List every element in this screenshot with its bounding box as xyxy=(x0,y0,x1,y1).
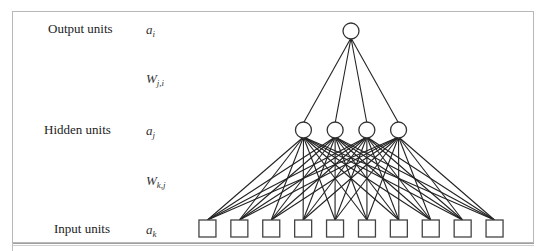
input-unit xyxy=(390,220,407,237)
edge-hidden-output xyxy=(351,38,367,123)
output-unit xyxy=(343,23,359,39)
hidden-unit xyxy=(327,122,343,138)
hidden-unit xyxy=(295,122,311,138)
input-unit xyxy=(199,220,216,237)
input-unit xyxy=(454,220,471,237)
edge-input-hidden xyxy=(399,137,495,220)
edge-input-hidden xyxy=(335,137,494,220)
input-unit xyxy=(231,220,248,237)
input-unit xyxy=(422,220,439,237)
edge-hidden-output xyxy=(335,38,351,123)
edge-hidden-output xyxy=(351,38,399,123)
input-unit xyxy=(358,220,375,237)
hidden-unit xyxy=(359,122,375,138)
input-unit xyxy=(295,220,312,237)
input-unit xyxy=(486,220,503,237)
edge-input-hidden xyxy=(367,137,495,220)
hidden-unit xyxy=(391,122,407,138)
network-diagram xyxy=(0,0,539,251)
edge-input-hidden xyxy=(207,137,303,220)
input-unit xyxy=(263,220,280,237)
edge-input-hidden xyxy=(239,137,303,220)
edge-hidden-output xyxy=(303,38,351,123)
input-unit xyxy=(327,220,344,237)
edge-input-hidden xyxy=(303,137,462,220)
edge-input-hidden xyxy=(271,137,303,220)
